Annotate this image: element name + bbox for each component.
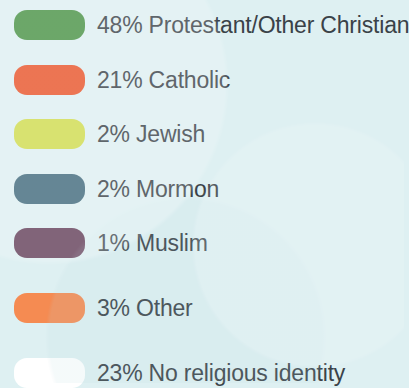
legend-row-label: 2% Jewish xyxy=(97,123,205,146)
legend-row[interactable]: 3% Other xyxy=(0,293,404,323)
legend-row[interactable]: 2% Mormon xyxy=(0,174,404,204)
swatch-protestant-other-christian xyxy=(14,10,85,40)
swatch-catholic xyxy=(14,65,85,95)
legend-row-label: 3% Other xyxy=(97,297,193,320)
legend-row-label: 48% Protestant/Other Christian xyxy=(97,14,409,37)
legend-row[interactable]: 48% Protestant/Other Christian xyxy=(0,10,404,40)
swatch-muslim xyxy=(14,228,85,258)
swatch-other xyxy=(14,293,85,323)
swatch-jewish xyxy=(14,119,85,149)
legend-row-label: 1% Muslim xyxy=(97,232,208,255)
swatch-mormon xyxy=(14,174,85,204)
legend-row[interactable]: 2% Jewish xyxy=(0,119,404,149)
legend-row-label: 2% Mormon xyxy=(97,178,219,201)
legend-row[interactable]: 21% Catholic xyxy=(0,65,404,95)
legend-row-label: 23% No religious identity xyxy=(97,362,345,385)
legend-row[interactable]: 23% No religious identity xyxy=(0,358,404,388)
swatch-no-religious-identity xyxy=(14,358,85,388)
legend-row-label: 21% Catholic xyxy=(97,69,230,92)
legend-row[interactable]: 1% Muslim xyxy=(0,228,404,258)
